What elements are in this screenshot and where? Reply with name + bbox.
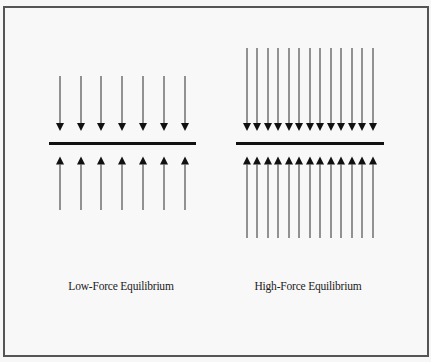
down-arrowhead-icon: [316, 123, 324, 131]
up-arrowhead-icon: [348, 157, 356, 165]
surface-bar: [49, 142, 196, 145]
up-arrowhead-icon: [56, 157, 64, 165]
down-arrowhead-icon: [274, 123, 282, 131]
up-arrowhead-icon: [264, 157, 272, 165]
up-arrowhead-icon: [77, 157, 85, 165]
down-arrowhead-icon: [337, 123, 345, 131]
up-arrowhead-icon: [369, 157, 377, 165]
high-force-label: High-Force Equilibrium: [254, 280, 361, 292]
up-arrowhead-icon: [118, 157, 126, 165]
down-arrowhead-icon: [285, 123, 293, 131]
up-arrowhead-icon: [253, 157, 261, 165]
down-arrowhead-icon: [118, 123, 126, 131]
down-arrowhead-icon: [139, 123, 147, 131]
down-arrowhead-icon: [306, 123, 314, 131]
low-force-panel: [49, 76, 196, 210]
down-arrowhead-icon: [358, 123, 366, 131]
up-arrowhead-icon: [316, 157, 324, 165]
down-arrowhead-icon: [181, 123, 189, 131]
up-arrowhead-icon: [243, 157, 251, 165]
up-arrowhead-icon: [97, 157, 105, 165]
up-arrowhead-icon: [358, 157, 366, 165]
down-arrowhead-icon: [253, 123, 261, 131]
surface-bar: [236, 142, 384, 145]
up-arrowhead-icon: [306, 157, 314, 165]
high-force-panel: [236, 48, 384, 238]
down-arrowhead-icon: [327, 123, 335, 131]
equilibrium-diagram: [0, 0, 431, 362]
down-arrowhead-icon: [56, 123, 64, 131]
down-arrowhead-icon: [369, 123, 377, 131]
down-arrowhead-icon: [77, 123, 85, 131]
up-arrowhead-icon: [181, 157, 189, 165]
down-arrowhead-icon: [97, 123, 105, 131]
up-arrowhead-icon: [160, 157, 168, 165]
down-arrowhead-icon: [295, 123, 303, 131]
down-arrowhead-icon: [160, 123, 168, 131]
low-force-label: Low-Force Equilibrium: [68, 280, 173, 292]
up-arrowhead-icon: [274, 157, 282, 165]
up-arrowhead-icon: [337, 157, 345, 165]
up-arrowhead-icon: [139, 157, 147, 165]
up-arrowhead-icon: [285, 157, 293, 165]
up-arrowhead-icon: [327, 157, 335, 165]
down-arrowhead-icon: [348, 123, 356, 131]
up-arrowhead-icon: [295, 157, 303, 165]
down-arrowhead-icon: [243, 123, 251, 131]
down-arrowhead-icon: [264, 123, 272, 131]
